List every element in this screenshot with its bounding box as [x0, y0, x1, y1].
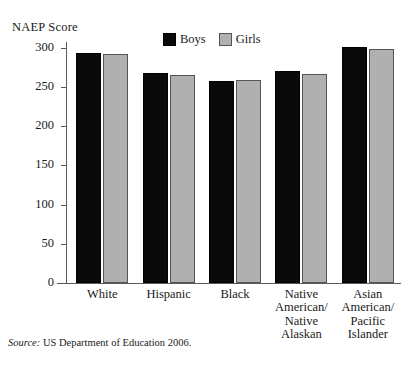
source-label: Source: — [8, 337, 40, 348]
bar-boys — [76, 53, 101, 283]
bar-girls — [302, 74, 327, 283]
y-axis-title: NAEP Score — [12, 20, 78, 35]
bar-girls — [369, 49, 394, 283]
plot-area — [66, 40, 398, 283]
y-tick-label: 150 — [35, 157, 54, 172]
bar-girls — [170, 75, 195, 283]
bar-girls — [236, 80, 261, 283]
x-axis-line — [57, 283, 401, 284]
source-note: Source: US Department of Education 2006. — [8, 337, 191, 348]
x-axis-label: Asian American/ Pacific Islander — [326, 288, 410, 342]
y-tick-label: 250 — [35, 79, 54, 94]
bar-girls — [103, 54, 128, 283]
bar-boys — [342, 47, 367, 283]
bar-boys — [275, 71, 300, 283]
source-text: US Department of Education 2006. — [43, 337, 191, 348]
y-tick-label: 100 — [35, 197, 54, 212]
y-tick-label: 200 — [35, 118, 54, 133]
y-tick-label: 50 — [42, 236, 55, 251]
y-tick-label: 0 — [48, 275, 54, 290]
naep-score-bar-chart: NAEP Score Boys Girls 050100150200250300… — [0, 0, 414, 365]
y-tick-mark — [61, 283, 66, 284]
bar-boys — [143, 73, 168, 283]
bar-boys — [209, 81, 234, 283]
y-tick-label: 300 — [35, 40, 54, 55]
